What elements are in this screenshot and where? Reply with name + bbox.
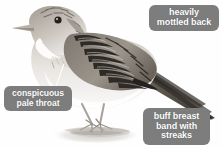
bird-eye — [54, 16, 61, 23]
bird-identification-figure: heavily mottled back conspicuous pale th… — [0, 0, 222, 149]
callout-throat-line-2: pale throat — [17, 99, 60, 108]
callout-breast-line-3: streaks — [161, 131, 192, 141]
callout-back-line-2: mottled back — [157, 18, 211, 28]
callout-heavily-mottled-back: heavily mottled back — [149, 5, 219, 31]
leader-line-back — [120, 18, 149, 31]
callout-buff-breast-band-with-streaks: buff breast band with streaks — [143, 108, 210, 145]
leader-line-breast — [112, 102, 143, 118]
callout-conspicuous-pale-throat: conspicuous pale throat — [4, 86, 72, 111]
